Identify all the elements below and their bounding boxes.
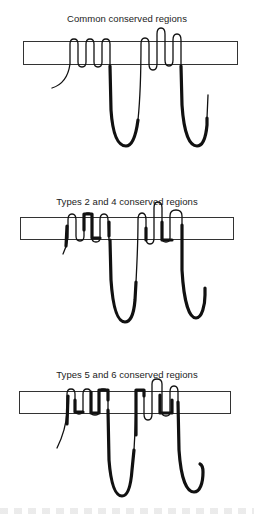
segment-tm1 [67,396,68,424]
protein-chain [52,39,110,88]
membrane-bar [20,392,231,414]
protein-chain [63,213,109,254]
panel-3-types-5-6 [20,379,231,496]
diagram-canvas [0,0,254,514]
cropped-caption-text [0,508,254,514]
loop-2-conserved [181,66,207,146]
loop-2-conserved [182,225,205,318]
segment-tm4 [136,390,144,435]
loop-1-conserved [108,410,134,496]
membrane-bar [24,42,238,65]
loop-1-return [136,202,182,282]
c-terminus [207,95,208,118]
segment-tm1 [66,226,67,246]
panel-1-common [24,28,238,146]
segment-tm2 [75,400,83,412]
loop-2-conserved [178,402,203,492]
loop-1-conserved [110,240,136,322]
panel-2-types-2-4 [21,202,234,322]
membrane-bar [21,218,234,240]
loop-1-conserved [110,66,138,146]
segment-tm3 [91,390,108,413]
